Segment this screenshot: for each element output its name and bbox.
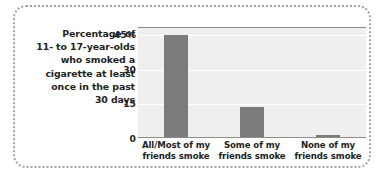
bar-some-friends-smoke: [240, 107, 264, 137]
x-axis: All/Most of my friends smoke Some of my …: [138, 140, 366, 162]
x-tick-label-none: None of my friends smoke: [290, 140, 366, 162]
chart-area: 45% 30 15 0: [138, 27, 366, 167]
x-label-line: friends smoke: [214, 151, 290, 162]
bar-slot: [214, 28, 290, 137]
x-label-line: friends smoke: [290, 151, 366, 162]
y-tick-label: 15: [123, 98, 136, 109]
figure-inner: Percentage of 11- to 17-year-olds who sm…: [13, 5, 371, 168]
x-label-line: Some of my: [214, 140, 290, 151]
bar-none-friends-smoke: [316, 135, 340, 137]
y-axis: 45% 30 15 0: [109, 27, 136, 137]
x-label-line: None of my: [290, 140, 366, 151]
bar-slot: [138, 28, 214, 137]
bar-all-most-friends-smoke: [164, 35, 188, 137]
bar-slot: [290, 28, 366, 137]
bars-layer: [138, 28, 366, 137]
chart-figure: Percentage of 11- to 17-year-olds who sm…: [0, 0, 384, 179]
x-label-line: All/Most of my: [138, 140, 214, 151]
y-tick-label: 30: [123, 63, 136, 74]
x-tick-label-all-most: All/Most of my friends smoke: [138, 140, 214, 162]
x-tick-label-some: Some of my friends smoke: [214, 140, 290, 162]
y-tick-label: 45%: [114, 28, 136, 39]
plot-region: [138, 27, 366, 138]
y-tick-label: 0: [130, 133, 136, 144]
x-label-line: friends smoke: [138, 151, 214, 162]
